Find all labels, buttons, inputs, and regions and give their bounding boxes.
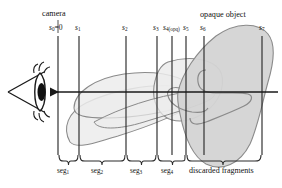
segment-label-seg2: seg2 — [91, 168, 103, 175]
brace-seg1 — [59, 155, 78, 165]
opaque-object-label: opaque object — [200, 11, 246, 19]
brace-seg4 — [158, 155, 185, 165]
eye-lashes-lower — [34, 111, 50, 122]
brace-seg2 — [80, 155, 125, 165]
eye-lashes-upper — [34, 62, 50, 73]
brace-seg3 — [127, 155, 156, 165]
camera-eye-icon — [8, 62, 50, 122]
plane-label-s1: s1 — [75, 24, 81, 32]
plane-label-s5: s5 — [183, 24, 189, 32]
plane-label-s4: s4(opq) — [163, 24, 180, 32]
camera-label: camera — [42, 10, 66, 18]
plane-label-s6: s6 — [200, 24, 206, 32]
eye-pupil — [38, 83, 46, 101]
segment-label-seg4: seg4 — [161, 168, 173, 175]
ray-casting-diagram: camera opaque object s0=0 s1 s2 s3 s4(op… — [0, 0, 282, 188]
plane-label-s2: s2 — [122, 24, 128, 32]
plane-label-s7: s7 — [259, 24, 265, 32]
plane-label-s0: s0=0 — [49, 24, 63, 32]
segment-label-seg3: seg3 — [130, 168, 142, 175]
discarded-fragments-label: discarded fragments — [189, 167, 254, 175]
segment-label-seg1: seg1 — [57, 168, 69, 175]
plane-label-s3: s3 — [153, 24, 159, 32]
opaque-object-body — [178, 25, 274, 167]
opaque-object-shape — [168, 25, 274, 167]
diagram-canvas — [0, 0, 282, 188]
